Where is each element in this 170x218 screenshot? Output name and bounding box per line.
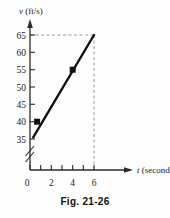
y-tick-label-40: 40: [17, 117, 27, 127]
y-tick-label-45: 45: [17, 100, 27, 110]
x-tick-label-2: 2: [49, 178, 54, 188]
x-axis-ticks: [30, 165, 94, 170]
x-tick-label-4: 4: [70, 178, 75, 188]
x-tick-label-6: 6: [92, 178, 97, 188]
figure-container: 65 60 55 50 45 40 35 0 2 4 6 v (ft/s) t …: [0, 0, 170, 218]
data-point-marker-2: [70, 67, 76, 73]
x-axis-title: t (seconds): [137, 165, 170, 175]
velocity-time-chart: 65 60 55 50 45 40 35 0 2 4 6 v (ft/s) t …: [0, 0, 170, 218]
y-tick-label-35: 35: [17, 135, 27, 145]
y-tick-label-55: 55: [17, 65, 27, 75]
x-axis-arrowhead: [124, 167, 133, 173]
velocity-data-line: [33, 35, 94, 137]
figure-caption: Fig. 21-26: [0, 196, 170, 207]
x-axis-title-unit: (seconds): [142, 165, 170, 175]
y-tick-label-65: 65: [17, 31, 27, 41]
y-axis-arrowhead: [27, 19, 33, 28]
y-tick-label-50: 50: [17, 83, 27, 93]
data-point-marker-1: [34, 119, 40, 125]
y-axis-title: v (ft/s): [19, 6, 43, 16]
y-axis-title-unit: (ft/s): [25, 6, 43, 16]
x-tick-label-0: 0: [25, 178, 30, 188]
y-tick-label-60: 60: [17, 48, 27, 58]
